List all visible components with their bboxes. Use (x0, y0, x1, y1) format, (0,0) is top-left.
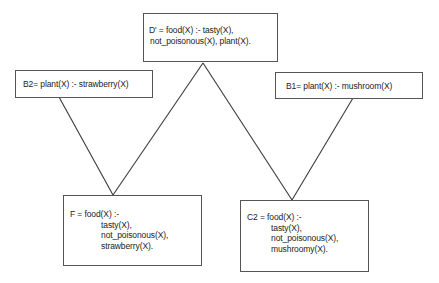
node-text-line: tasty(X), (70, 220, 201, 231)
node-text-line: not_poisonous(X), (70, 230, 201, 241)
node-text-line: D' = food(X) :- tasty(X), (149, 25, 277, 36)
node-text-line: B2= plant(X) :- strawberry(X) (23, 79, 152, 90)
edge-b2-to-f (59, 97, 113, 195)
diagram-canvas: D' = food(X) :- tasty(X), not_poisonous(… (0, 0, 439, 283)
node-text-line: F = food(X) :- (70, 209, 201, 220)
node-text-line: tasty(X), (247, 223, 368, 234)
node-b1-clause: B1= plant(X) :- mushroom(X) (275, 72, 423, 99)
node-text-line: C2 = food(X) :- (247, 212, 368, 223)
node-text-line: not_poisonous(X), (247, 233, 368, 244)
node-text-line: B1= plant(X) :- mushroom(X) (286, 81, 422, 92)
edge-b1-to-c2 (292, 98, 353, 200)
node-text-line: strawberry(X). (70, 241, 201, 252)
node-text-line: not_poisonous(X), plant(X). (149, 36, 277, 47)
node-b2-clause: B2= plant(X) :- strawberry(X) (15, 70, 153, 98)
node-c2-clause: C2 = food(X) :- tasty(X), not_poisonous(… (240, 200, 369, 272)
node-f-clause: F = food(X) :- tasty(X), not_poisonous(X… (63, 195, 202, 266)
node-d-prime-clause: D' = food(X) :- tasty(X), not_poisonous(… (143, 13, 278, 62)
node-text-line: mushroomy(X). (247, 244, 368, 255)
